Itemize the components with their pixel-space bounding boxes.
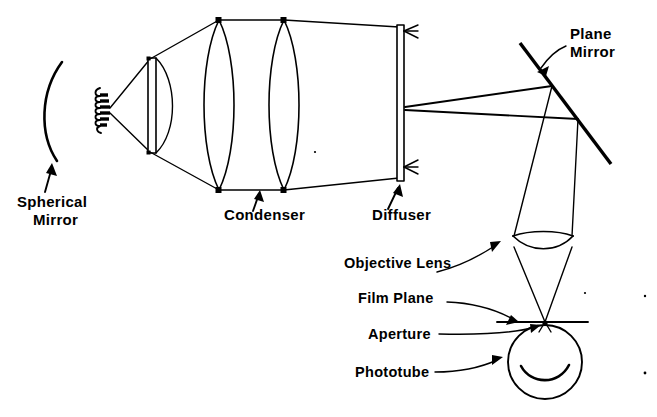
label-plane-mirror-line2: Mirror xyxy=(570,43,615,60)
diffuser-to-mirror-rays xyxy=(405,86,578,119)
label-plane-mirror-line1: Plane xyxy=(570,25,612,42)
label-film-plane: Film Plane xyxy=(358,290,434,306)
label-phototube: Phototube xyxy=(355,364,429,380)
diffuser xyxy=(397,25,418,181)
scan-speck xyxy=(644,372,647,375)
spherical-mirror xyxy=(44,62,62,161)
plane-mirror xyxy=(520,43,611,164)
phototube-leader-arrow xyxy=(435,355,503,372)
label-spherical-mirror-line2: Mirror xyxy=(33,211,78,228)
phototube xyxy=(508,325,582,399)
plano-convex-lens xyxy=(147,57,173,155)
label-spherical-mirror-line1: Spherical xyxy=(17,193,87,210)
source-ray-bundle xyxy=(110,59,150,152)
objective-lens xyxy=(513,232,573,249)
scan-speck xyxy=(314,151,316,153)
label-objective-lens: Objective Lens xyxy=(344,255,451,271)
label-aperture: Aperture xyxy=(368,326,431,342)
label-condenser: Condenser xyxy=(224,206,305,223)
diagram-canvas: Spherical Mirror Condenser Diffuser Plan… xyxy=(0,0,657,417)
converging-beam xyxy=(514,247,572,332)
film-plane-leader-arrow xyxy=(447,302,519,325)
scan-speck xyxy=(584,292,586,294)
aperture-leader-arrow xyxy=(439,324,541,334)
condenser-lens-2 xyxy=(269,17,299,193)
optical-system-diagram: Spherical Mirror Condenser Diffuser Plan… xyxy=(0,0,657,417)
plane-mirror-leader-arrow xyxy=(537,46,566,76)
scan-speck xyxy=(644,295,646,297)
condenser-lens-1 xyxy=(204,17,234,193)
lamp-filament-icon xyxy=(96,88,111,133)
spherical-mirror-leader-arrow xyxy=(45,163,57,192)
label-diffuser: Diffuser xyxy=(372,206,431,223)
